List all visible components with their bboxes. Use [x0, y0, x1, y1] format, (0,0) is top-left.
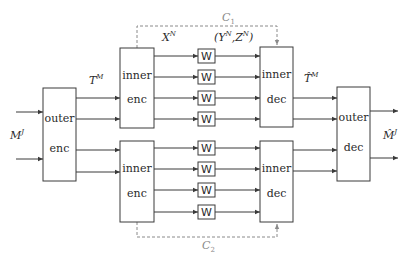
svg-text:enc: enc: [127, 93, 147, 106]
output-message-label: M̂J: [382, 128, 398, 142]
channel-row: W: [154, 205, 260, 219]
svg-text:W: W: [201, 92, 212, 105]
outer-encoder-block: outer enc: [43, 88, 76, 181]
svg-text:inner: inner: [262, 162, 292, 175]
channel-row: W: [154, 183, 260, 197]
svg-text:inner: inner: [122, 69, 152, 82]
svg-text:W: W: [201, 206, 212, 219]
outer-decoder-block: outer dec: [337, 87, 370, 181]
svg-text:outer: outer: [339, 111, 370, 124]
channel-row: W: [154, 49, 260, 63]
svg-text:W: W: [201, 163, 212, 176]
inner-decoder-bottom-block: inner dec: [260, 141, 293, 222]
inner-to-outer-dec-arrows: [293, 98, 337, 171]
svg-text:enc: enc: [127, 187, 147, 200]
t-m-label: TM: [89, 73, 104, 87]
concatenated-coding-diagram: C1 C2 MJ outer enc TM inner enc inner en…: [0, 0, 413, 261]
channel-row: W: [154, 141, 260, 155]
c2-dashed-link: [137, 222, 277, 237]
svg-text:dec: dec: [344, 141, 364, 154]
svg-text:inner: inner: [122, 162, 152, 175]
svg-text:inner: inner: [262, 68, 292, 81]
t-hat-m-label: T̂M: [304, 71, 319, 85]
outer-to-inner-enc-arrows: [76, 98, 120, 172]
svg-text:W: W: [201, 50, 212, 63]
input-message-label: MJ: [9, 128, 25, 142]
c1-label: C1: [222, 11, 235, 26]
x-n-label: XN: [161, 30, 177, 44]
svg-text:enc: enc: [50, 142, 70, 155]
channel-row: W: [154, 91, 260, 105]
inner-decoder-top-block: inner dec: [260, 47, 293, 127]
inner-encoder-bottom-block: inner enc: [120, 141, 154, 222]
svg-text:dec: dec: [267, 93, 287, 106]
svg-text:W: W: [201, 113, 212, 126]
svg-text:W: W: [201, 71, 212, 84]
svg-text:W: W: [201, 142, 212, 155]
svg-text:outer: outer: [45, 112, 76, 125]
svg-text:dec: dec: [267, 187, 287, 200]
channel-row: W: [154, 162, 260, 176]
channel-row: W: [154, 112, 260, 126]
c1-dashed-link: [137, 26, 277, 48]
svg-text:W: W: [201, 184, 212, 197]
y-z-label: (YN,ZN): [214, 30, 253, 44]
inner-encoder-top-block: inner enc: [120, 48, 154, 128]
channel-row: W: [154, 70, 260, 84]
c2-label: C2: [202, 239, 215, 254]
